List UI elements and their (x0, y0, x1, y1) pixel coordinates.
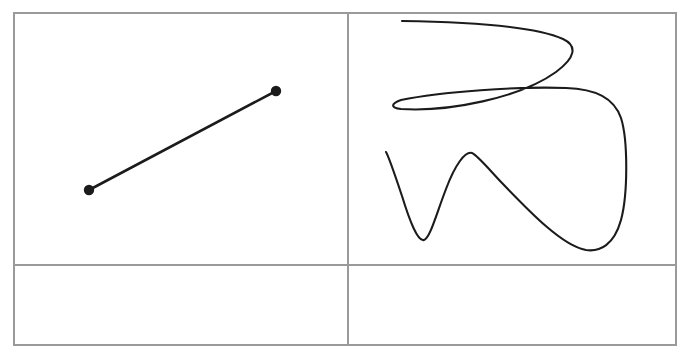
cell-top-right (348, 13, 676, 265)
cell-top-left (14, 13, 348, 265)
figure-canvas (0, 0, 690, 356)
endpoint-dot-end (271, 86, 281, 96)
cell-bottom-left (14, 265, 348, 345)
endpoint-dot-start (84, 185, 94, 195)
cell-bottom-right (348, 265, 676, 345)
stroke-comparison-figure (0, 0, 690, 356)
